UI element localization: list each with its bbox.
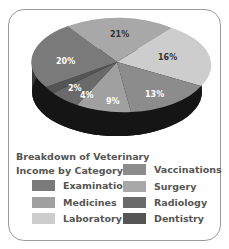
legend-swatch bbox=[32, 197, 55, 208]
legend-title-line1: Breakdown of Veterinary bbox=[16, 150, 150, 164]
label-medicines: 9% bbox=[106, 97, 120, 106]
label-examinations: 20% bbox=[56, 57, 75, 66]
label-laboratory: 16% bbox=[158, 53, 177, 62]
legend-item-surgery: Surgery bbox=[123, 180, 196, 192]
legend-swatch bbox=[32, 213, 55, 224]
legend-swatch bbox=[123, 164, 146, 175]
legend-label: Medicines bbox=[63, 197, 117, 208]
legend-item-radiology: Radiology bbox=[123, 196, 207, 208]
legend-swatch bbox=[123, 213, 146, 224]
pie-chart: 21% 16% 13% 9% 4% 2% 20% bbox=[0, 0, 229, 150]
legend-swatch bbox=[123, 181, 146, 192]
legend-item-examinations: Examinations bbox=[32, 179, 135, 191]
legend-item-dentistry: Dentistry bbox=[123, 212, 204, 224]
label-surgery: 21% bbox=[110, 30, 129, 39]
legend-item-vaccinations: Vaccinations bbox=[123, 163, 222, 175]
legend-item-medicines: Medicines bbox=[32, 196, 117, 208]
legend-label: Dentistry bbox=[154, 213, 204, 224]
legend-swatch bbox=[32, 180, 55, 191]
label-vaccinations: 13% bbox=[145, 90, 164, 99]
legend-label: Vaccinations bbox=[154, 164, 222, 175]
legend-label: Radiology bbox=[154, 197, 207, 208]
legend-label: Laboratory bbox=[63, 213, 122, 224]
legend-label: Surgery bbox=[154, 181, 196, 192]
label-dentistry: 2% bbox=[68, 84, 82, 93]
label-radiology: 4% bbox=[80, 91, 94, 100]
legend-item-laboratory: Laboratory bbox=[32, 212, 122, 224]
legend-swatch bbox=[123, 197, 146, 208]
